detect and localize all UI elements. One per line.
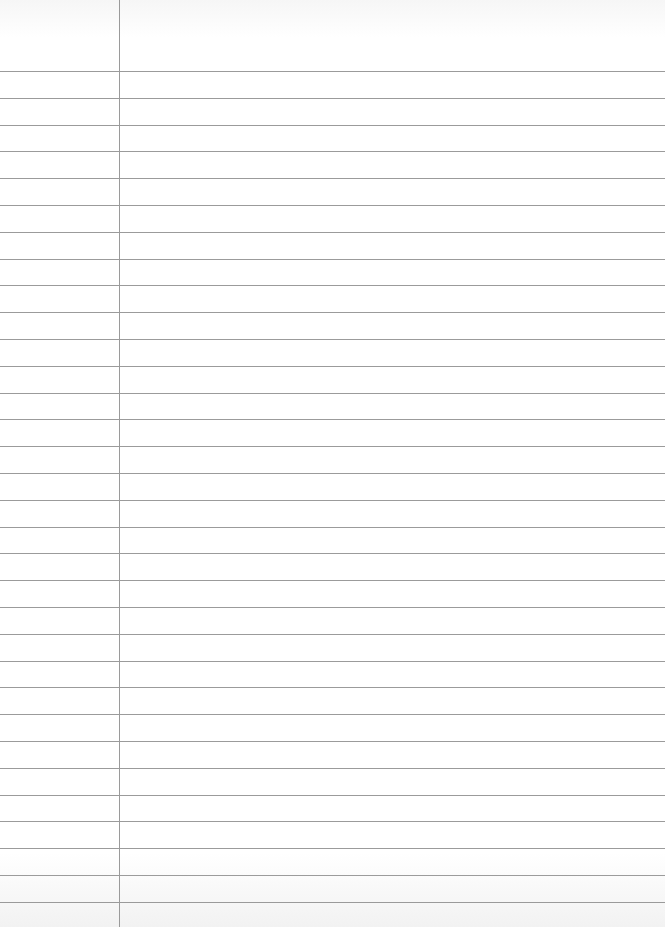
ruled-line bbox=[0, 232, 665, 233]
ruled-line bbox=[0, 527, 665, 528]
ruled-line bbox=[0, 821, 665, 822]
ruled-line bbox=[0, 151, 665, 152]
ruled-line bbox=[0, 178, 665, 179]
ruled-line bbox=[0, 795, 665, 796]
ruled-line bbox=[0, 366, 665, 367]
ruled-line bbox=[0, 125, 665, 126]
ruled-line bbox=[0, 687, 665, 688]
ruled-line bbox=[0, 285, 665, 286]
ruled-line bbox=[0, 634, 665, 635]
ruled-line bbox=[0, 500, 665, 501]
ruled-line bbox=[0, 339, 665, 340]
ruled-line bbox=[0, 393, 665, 394]
ruled-paper bbox=[0, 0, 665, 927]
ruled-line bbox=[0, 714, 665, 715]
ruled-line bbox=[0, 259, 665, 260]
ruled-line bbox=[0, 848, 665, 849]
ruled-line bbox=[0, 312, 665, 313]
ruled-line bbox=[0, 875, 665, 876]
ruled-line bbox=[0, 205, 665, 206]
ruled-line bbox=[0, 741, 665, 742]
ruled-line bbox=[0, 473, 665, 474]
ruled-line bbox=[0, 419, 665, 420]
ruled-line bbox=[0, 446, 665, 447]
ruled-line bbox=[0, 607, 665, 608]
ruled-line bbox=[0, 71, 665, 72]
ruled-line bbox=[0, 553, 665, 554]
margin-line bbox=[119, 0, 120, 927]
ruled-line bbox=[0, 661, 665, 662]
ruled-line bbox=[0, 902, 665, 903]
ruled-line bbox=[0, 768, 665, 769]
ruled-line bbox=[0, 98, 665, 99]
ruled-line bbox=[0, 580, 665, 581]
